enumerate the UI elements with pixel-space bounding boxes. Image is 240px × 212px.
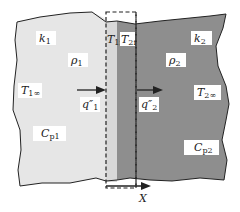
x-axis-label: X xyxy=(138,192,148,205)
x-axis-arrowhead-icon xyxy=(141,182,151,190)
interface-diagram: k1 ρ1 T1∞ Cp1 q″1 T1i T2i q″2 k2 ρ2 T2∞ … xyxy=(0,0,240,212)
